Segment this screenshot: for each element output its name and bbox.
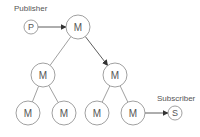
node-label: M [24,108,32,119]
edge-m2-to-m5-line [49,86,58,103]
node-middleware-m3: M [103,63,127,87]
node-label: P [28,22,34,32]
node-middleware-m6: M [85,101,109,125]
edge-m2-to-m4-line [32,86,38,102]
node-label: M [111,70,119,81]
node-label: M [129,108,137,119]
node-middleware-m2: M [31,63,55,87]
nodes-group: PMMMMMMMS [16,15,182,125]
node-middleware-m4: M [16,101,40,125]
node-subscriber-s: S [168,106,182,120]
node-label: M [74,22,82,33]
publish-subscribe-tree-diagram: PMMMMMMMS [0,0,200,137]
node-publisher-p: P [24,20,38,34]
node-label: M [93,108,101,119]
node-middleware-m5: M [52,101,76,125]
node-middleware-m1: M [66,15,90,39]
node-middleware-m7: M [121,101,145,125]
node-label: S [172,108,178,118]
edge-m3-to-m6-line [102,86,110,102]
node-label: M [39,70,47,81]
edge-m1-to-m2-line [50,37,71,66]
edge-m3-to-m7-line [120,86,128,102]
edge-m1-to-m3-arrow [85,37,107,66]
node-label: M [60,108,68,119]
